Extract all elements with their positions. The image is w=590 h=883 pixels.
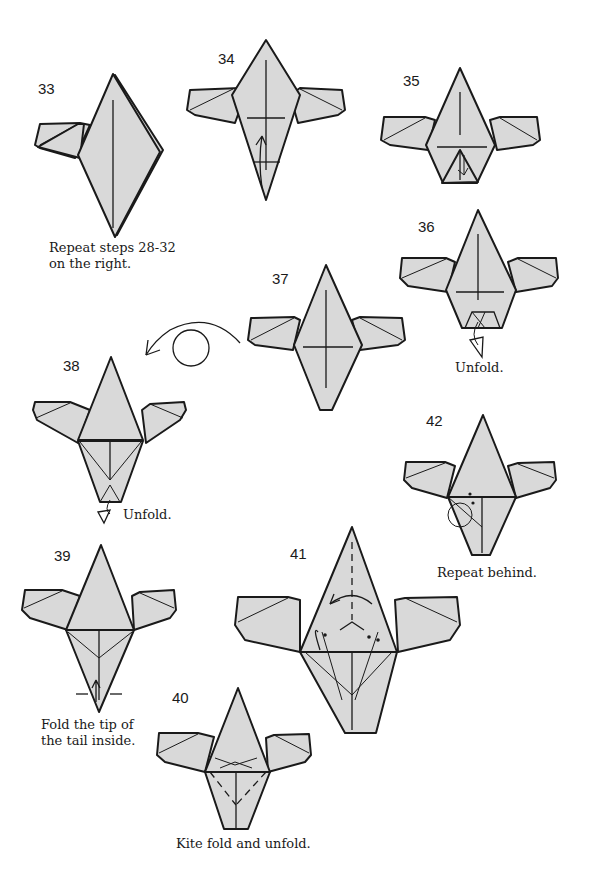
caption-line: Kite fold and unfold. (176, 836, 311, 852)
step-42-diagram (404, 415, 556, 555)
caption-line: the tail inside. (41, 733, 135, 749)
step-number-39: 39 (54, 547, 71, 564)
caption-line: Unfold. (123, 507, 172, 523)
caption-step-38: Unfold. (123, 507, 172, 523)
caption-line: on the right. (49, 256, 176, 272)
caption-step-33: Repeat steps 28-32 on the right. (49, 240, 176, 272)
caption-step-36: Unfold. (455, 360, 504, 376)
caption-line: Fold the tip of (41, 717, 135, 733)
caption-line: Repeat steps 28-32 (49, 240, 176, 256)
caption-step-39: Fold the tip of the tail inside. (41, 717, 135, 749)
step-33-diagram (35, 74, 163, 237)
turn-over-arrow (146, 322, 240, 366)
step-number-34: 34 (218, 50, 235, 67)
step-41-diagram (235, 527, 460, 733)
step-number-33: 33 (38, 80, 55, 97)
caption-step-40: Kite fold and unfold. (176, 836, 311, 852)
step-number-38: 38 (63, 357, 80, 374)
step-number-42: 42 (426, 412, 443, 429)
caption-line: Repeat behind. (437, 565, 537, 581)
step-number-41: 41 (290, 545, 307, 562)
step-34-diagram (187, 40, 345, 200)
step-number-36: 36 (418, 218, 435, 235)
step-number-35: 35 (403, 72, 420, 89)
caption-line: Unfold. (455, 360, 504, 376)
step-number-37: 37 (272, 270, 289, 287)
origami-diagrams (0, 0, 590, 883)
caption-step-42: Repeat behind. (437, 565, 537, 581)
step-38-diagram (33, 357, 186, 523)
step-39-diagram (22, 545, 176, 712)
step-number-40: 40 (172, 689, 189, 706)
step-40-diagram (157, 688, 311, 829)
